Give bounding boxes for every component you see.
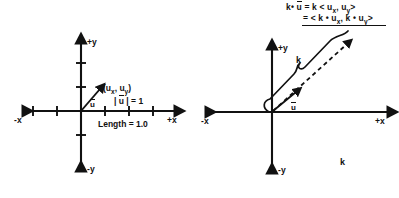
left-axis-label-neg-y: -y bbox=[87, 165, 95, 174]
formula-gt-2: > bbox=[368, 13, 373, 23]
left-diagram-svg bbox=[0, 0, 200, 198]
left-axis-label-neg-x: -x bbox=[14, 116, 22, 125]
right-brace bbox=[264, 31, 348, 112]
formula-line-2: = < k • ux, k • uy> bbox=[303, 14, 373, 25]
formula-eq-2: = bbox=[303, 13, 308, 23]
scalar-multiple-diagram: +x -x +y -y u k k bbox=[199, 0, 399, 198]
left-point-label-text: (ux, uy) bbox=[103, 83, 131, 93]
formula-k-3: k bbox=[318, 13, 323, 23]
right-vector-label: u bbox=[291, 104, 296, 112]
left-axis-label-pos-y: +y bbox=[87, 38, 97, 47]
left-length-label: Length = 1.0 bbox=[98, 120, 148, 129]
left-magnitude-label-text: | u | = 1 bbox=[114, 96, 143, 106]
formula-lt-1: < bbox=[319, 2, 324, 12]
left-magnitude-label: | u | = 1 bbox=[114, 97, 143, 106]
formula-k-4: k bbox=[345, 13, 350, 23]
formula-comma-2: , bbox=[340, 13, 343, 23]
formula-lt-2: < bbox=[311, 13, 316, 23]
formula-dot-2: • bbox=[326, 13, 329, 23]
formula-eq-1: = bbox=[304, 2, 309, 12]
right-vector-label-text: u bbox=[291, 104, 296, 112]
formula-u-1: u bbox=[297, 3, 302, 12]
formula-gt-1: > bbox=[350, 2, 355, 12]
formula-underline bbox=[302, 25, 386, 26]
formula-comma-1: , bbox=[336, 2, 339, 12]
left-vector-label-text: u bbox=[90, 101, 95, 109]
right-axis-label-pos-x: +x bbox=[375, 117, 385, 126]
left-axis-label-pos-x: +x bbox=[167, 116, 177, 125]
formula-dot-3: • bbox=[353, 13, 356, 23]
unit-vector-diagram: +x -x +y -y u (ux, uy) | u | = 1 Length … bbox=[0, 0, 200, 198]
right-axis-label-neg-y: -y bbox=[278, 166, 286, 175]
left-point-label: (ux, uy) bbox=[103, 84, 131, 95]
right-axis-label-neg-x: -x bbox=[201, 117, 209, 126]
formula-dot-1: • bbox=[291, 2, 294, 12]
left-vector-label: u bbox=[90, 101, 95, 109]
right-axis-label-pos-y: +y bbox=[278, 44, 288, 53]
left-magnitude-vector-symbol: u bbox=[119, 97, 124, 106]
right-brace-label: k bbox=[296, 56, 301, 65]
right-scalar-label: k bbox=[340, 158, 345, 167]
right-diagram-svg bbox=[199, 0, 399, 198]
formula-k-2: k bbox=[312, 2, 317, 12]
figure-canvas: +x -x +y -y u (ux, uy) | u | = 1 Length … bbox=[0, 0, 399, 198]
